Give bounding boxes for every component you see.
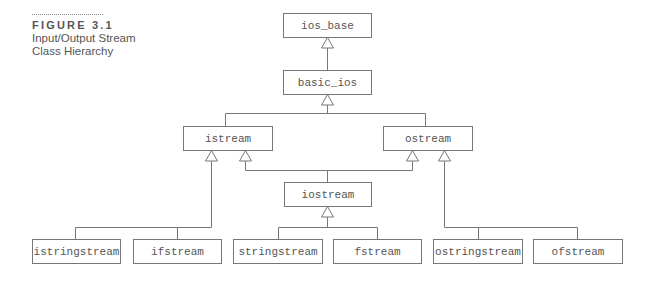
edge-iostream-bus [246,161,413,171]
class-hierarchy-diagram: ios_base basic_ios istream ostream iostr… [0,0,651,282]
class-box-istringstream: istringstream [33,240,121,264]
class-label: stringstream [238,246,318,258]
class-label: fstream [354,246,401,258]
inheritance-arrow-icon [322,38,334,49]
inheritance-arrow-icon [240,151,252,162]
class-label: ostringstream [435,246,521,258]
inheritance-arrow-icon [206,151,218,162]
edge-ostream-children [445,161,578,239]
class-box-ostream: ostream [384,127,473,151]
class-box-stringstream: stringstream [234,240,323,264]
class-box-ostringstream: ostringstream [434,240,523,264]
class-box-istream: istream [184,127,273,151]
edge-istream-ostream-bus [226,114,426,127]
class-label: istringstream [34,246,120,258]
class-box-fstream: fstream [334,240,422,264]
class-box-iostream: iostream [285,183,372,207]
class-box-basic_ios: basic_ios [284,71,372,95]
class-box-ofstream: ofstream [534,240,623,264]
edge-iostream-children [279,228,378,240]
class-label: ofstream [552,246,605,258]
edge-istream-children [76,161,212,239]
inheritance-arrow-icon [407,151,419,162]
class-label: ostream [405,133,452,145]
inheritance-arrow-icon [439,151,451,162]
class-label: istream [205,133,252,145]
class-label: iostream [302,189,355,201]
class-box-ifstream: ifstream [134,240,222,264]
class-label: basic_ios [298,77,357,89]
inheritance-arrow-icon [322,95,334,106]
class-box-ios_base: ios_base [284,14,372,38]
inheritance-arrow-icon [322,207,334,218]
class-label: ifstream [151,246,204,258]
class-label: ios_base [301,20,354,32]
